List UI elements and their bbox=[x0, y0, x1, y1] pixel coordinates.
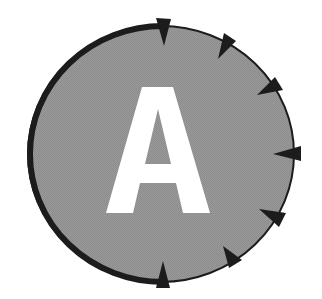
circle-emblem-graphic bbox=[0, 0, 322, 299]
emblem: A bbox=[0, 0, 322, 299]
